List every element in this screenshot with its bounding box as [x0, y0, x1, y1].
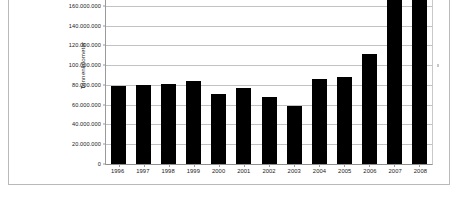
x-tick-label: 2000 — [206, 168, 231, 174]
x-tick-mark — [394, 164, 395, 167]
bar-slot — [382, 0, 407, 164]
bar — [337, 77, 352, 164]
y-tick-label: 0 — [98, 161, 101, 167]
x-tick-label: 2002 — [256, 168, 281, 174]
x-tick-mark — [169, 164, 170, 167]
bar-slot — [307, 0, 332, 164]
bar — [136, 85, 151, 164]
x-tick-mark — [319, 164, 320, 167]
bar-slot — [181, 0, 206, 164]
bar-slot — [231, 0, 256, 164]
bar — [362, 54, 377, 164]
x-tick-mark — [294, 164, 295, 167]
bar — [262, 97, 277, 164]
bar — [186, 81, 201, 164]
x-tick-mark — [194, 164, 195, 167]
x-tick-label: 1998 — [155, 168, 180, 174]
bar-slot — [156, 0, 181, 164]
x-tick-label: 1996 — [105, 168, 130, 174]
x-tick-mark — [119, 164, 120, 167]
bar — [287, 106, 302, 164]
page-speck-artifact — [437, 64, 439, 67]
bar — [387, 0, 402, 164]
x-tick-label: 1997 — [130, 168, 155, 174]
x-tick-mark — [419, 164, 420, 167]
bar — [236, 88, 251, 164]
bar — [161, 84, 176, 164]
bar — [412, 0, 427, 164]
x-axis-labels: 1996199719981999200020012002200320042005… — [105, 168, 433, 174]
chart-screenshot: Tonnenkilometer 020.000.00040.000.00060.… — [0, 0, 459, 211]
bar-slot — [106, 0, 131, 164]
y-tick-label: 80.000.000 — [72, 82, 101, 88]
plot-area: 020.000.00040.000.00060.000.00080.000.00… — [105, 0, 433, 165]
x-tick-mark — [344, 164, 345, 167]
x-tick-mark — [244, 164, 245, 167]
bar-slot — [357, 0, 382, 164]
y-tick-label: 140.000.000 — [69, 23, 101, 29]
bar — [312, 79, 327, 164]
x-tick-mark — [269, 164, 270, 167]
x-tick-mark — [369, 164, 370, 167]
x-tick-label: 2003 — [282, 168, 307, 174]
x-tick-label: 2004 — [307, 168, 332, 174]
x-tick-label: 2008 — [408, 168, 433, 174]
bar-slot — [256, 0, 281, 164]
y-tick-label: 60.000.000 — [72, 102, 101, 108]
y-tick-label: 40.000.000 — [72, 121, 101, 127]
bar-series — [106, 0, 432, 164]
y-tick-label: 20.000.000 — [72, 141, 101, 147]
x-tick-mark — [219, 164, 220, 167]
bar-slot — [282, 0, 307, 164]
y-tick-label: 100.000.000 — [69, 62, 101, 68]
x-tick-mark — [144, 164, 145, 167]
y-tick-label: 160.000.000 — [69, 3, 101, 9]
y-axis-title-wrapper: Tonnenkilometer — [8, 48, 93, 58]
x-tick-label: 2005 — [332, 168, 357, 174]
bar — [211, 94, 226, 164]
bar-slot — [206, 0, 231, 164]
bar — [111, 86, 126, 164]
x-tick-label: 2007 — [383, 168, 408, 174]
bar-slot — [407, 0, 432, 164]
bar-slot — [332, 0, 357, 164]
x-tick-label: 2001 — [231, 168, 256, 174]
y-tick-label: 120.000.000 — [69, 42, 101, 48]
chart-figure-frame: Tonnenkilometer 020.000.00040.000.00060.… — [8, 0, 450, 185]
bar-slot — [131, 0, 156, 164]
x-tick-label: 2006 — [357, 168, 382, 174]
x-tick-label: 1999 — [181, 168, 206, 174]
